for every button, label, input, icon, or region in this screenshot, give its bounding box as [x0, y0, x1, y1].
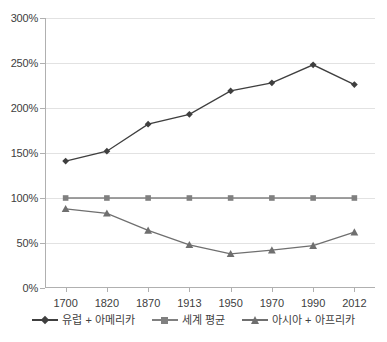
x-tick-mark — [107, 288, 108, 292]
x-tick-mark — [272, 288, 273, 292]
x-tick-mark — [66, 288, 67, 292]
x-tick-label: 1990 — [290, 297, 336, 309]
x-tick-mark — [354, 288, 355, 292]
x-tick-mark — [148, 288, 149, 292]
square-marker-icon — [152, 314, 178, 326]
x-tick-label: 1700 — [43, 297, 89, 309]
x-tick-label: 1870 — [125, 297, 171, 309]
x-tick-label: 2012 — [331, 297, 377, 309]
x-tick-label: 1970 — [249, 297, 295, 309]
gridline — [46, 198, 375, 199]
y-tick-label: 200% — [0, 103, 38, 114]
plot-area — [45, 18, 375, 288]
y-tick-label: 50% — [0, 238, 38, 249]
x-tick-label: 1950 — [208, 297, 254, 309]
legend-item-world-average[interactable]: 세계 평균 — [152, 314, 225, 326]
y-tick-mark — [40, 288, 45, 289]
x-tick-mark — [231, 288, 232, 292]
line-chart: 300%250%200%150%100%50%0% 17001820187019… — [0, 0, 387, 342]
legend-label-world-average: 세계 평균 — [182, 314, 225, 326]
legend-item-europe-america[interactable]: 유럽 + 아메리카 — [32, 314, 135, 326]
y-tick-label: 0% — [0, 283, 38, 294]
gridline — [46, 243, 375, 244]
y-tick-label: 250% — [0, 58, 38, 69]
diamond-marker-icon — [32, 314, 58, 326]
legend-label-asia-africa: 아시아 + 아프리카 — [272, 314, 355, 326]
gridline — [46, 18, 375, 19]
legend-label-europe-america: 유럽 + 아메리카 — [62, 314, 135, 326]
y-tick-label: 100% — [0, 193, 38, 204]
gridline — [46, 153, 375, 154]
gridline — [46, 108, 375, 109]
legend-item-asia-africa[interactable]: 아시아 + 아프리카 — [242, 314, 355, 326]
x-tick-mark — [189, 288, 190, 292]
gridline — [46, 288, 375, 289]
y-tick-label: 300% — [0, 13, 38, 24]
gridline — [46, 63, 375, 64]
y-tick-label: 150% — [0, 148, 38, 159]
x-tick-label: 1913 — [166, 297, 212, 309]
triangle-marker-icon — [242, 314, 268, 326]
x-tick-mark — [313, 288, 314, 292]
chart-legend: 유럽 + 아메리카 세계 평균 아시아 + 아프리카 — [0, 314, 387, 326]
x-tick-label: 1820 — [84, 297, 130, 309]
